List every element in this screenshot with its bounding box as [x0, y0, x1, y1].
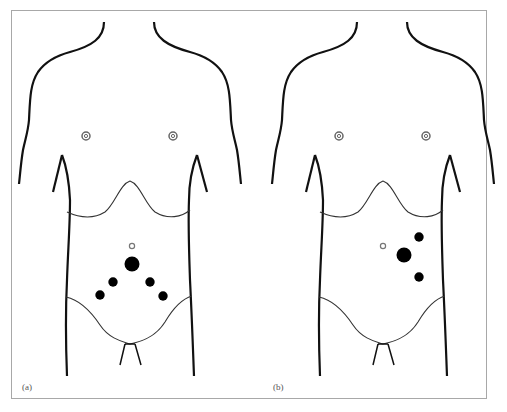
panel-b-label: (b) — [273, 382, 284, 392]
panel-a-label: (a) — [22, 382, 32, 392]
panel-a-torso — [19, 22, 241, 376]
panel-b-torso — [272, 22, 494, 376]
torso-diagrams — [0, 0, 507, 412]
